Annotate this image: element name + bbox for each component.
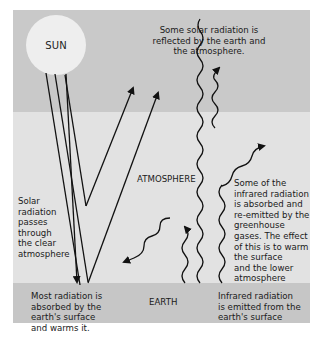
ir-up-arrow-1 <box>182 227 188 283</box>
reflected-atmosphere-arrow <box>86 88 133 206</box>
passes-through-annotation: Solar radiation passes through the clear… <box>18 196 70 260</box>
absorbed-surface-annotation: Most radiation is absorbed by the earth'… <box>31 291 102 333</box>
ir-emission-wave-2 <box>219 185 225 283</box>
atmosphere-label: ATMOSPHERE <box>137 174 196 185</box>
greenhouse-effect-diagram: SUN <box>0 0 322 346</box>
infrared-emitted-annotation: Infrared radiation is emitted from the e… <box>218 291 301 323</box>
ir-emission-wave-1 <box>197 19 203 283</box>
ir-escape-arrow <box>212 68 219 128</box>
reflected-annotation: Some solar radiation is reflected by the… <box>124 25 294 57</box>
reflected-earth-arrow <box>88 93 158 283</box>
solar-ray-v <box>65 75 86 206</box>
earth-label: EARTH <box>149 297 177 308</box>
ir-down-arrow <box>124 218 170 262</box>
reemitted-annotation: Some of the infrared radiation is absorb… <box>234 178 309 284</box>
